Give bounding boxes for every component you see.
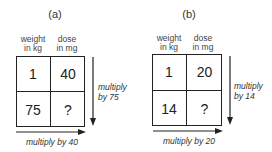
right-arrow-icon (153, 128, 225, 135)
cell-dose-unknown: ? (187, 91, 222, 126)
panel-a: (a) weight in kg dose in mg 1 40 75 ? mu… (0, 0, 136, 152)
column-header-dose: dose in mg (186, 34, 220, 52)
horizontal-multiply-note: multiply by 40 (26, 137, 78, 147)
column-header-dose: dose in mg (50, 35, 84, 53)
vertical-multiply-note: multiply by 75 (98, 82, 127, 102)
cell-dose-1: 20 (187, 54, 222, 90)
cell-weight-1: 1 (152, 54, 186, 90)
cell-weight-2: 14 (152, 91, 186, 126)
cell-dose-1: 40 (51, 56, 85, 91)
cell-weight-1: 1 (16, 56, 50, 91)
vertical-multiply-note: multiply by 14 (234, 81, 263, 101)
column-header-weight: weight in kg (152, 34, 186, 52)
cell-dose-unknown: ? (51, 92, 85, 127)
horizontal-multiply-note: multiply by 20 (163, 136, 215, 146)
right-arrow-icon (16, 129, 88, 136)
panel-label: (b) (174, 8, 204, 20)
panel-label: (a) (40, 8, 70, 20)
column-header-weight: weight in kg (16, 35, 50, 53)
down-arrow-icon (90, 57, 98, 127)
cell-weight-2: 75 (16, 92, 50, 127)
panel-b: (b) weight in kg dose in mg 1 20 14 ? mu… (136, 0, 272, 152)
